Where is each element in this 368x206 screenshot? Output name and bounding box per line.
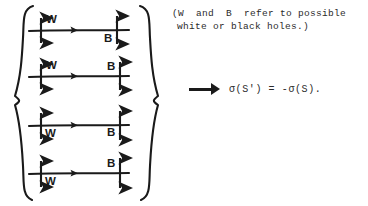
conclusion-formula: σ(S') = -σ(S). <box>229 84 321 95</box>
row-4-horizontal-line <box>29 173 129 174</box>
row-3-left-label: W <box>45 127 56 139</box>
note-line-1: (W and B refer to possible <box>172 8 368 21</box>
row-1-right-label: B <box>104 32 112 44</box>
row-4-left-label: W <box>45 175 56 187</box>
row-2-left-label: W <box>46 59 57 71</box>
implies-arrow-head <box>211 83 220 95</box>
implies-arrow-icon <box>189 83 223 95</box>
row-4-right-label: B <box>107 157 115 169</box>
row-1-left-label: W <box>46 13 57 25</box>
row-2-right-label: B <box>107 60 115 72</box>
row-1-horizontal-line <box>29 30 129 31</box>
left-brace-glyph <box>15 6 33 200</box>
diagram-row-4: W B <box>29 157 129 188</box>
row-3-right-label: B <box>107 126 115 138</box>
figure-svg: W B W B W B W B <box>0 0 185 206</box>
right-brace-glyph <box>140 6 158 200</box>
note-block: (W and B refer to possible white or blac… <box>172 8 368 33</box>
row-2-horizontal-line <box>29 76 129 77</box>
note-line-2: white or black holes.) <box>172 21 368 34</box>
diagram-row-1: W B <box>29 13 129 44</box>
conclusion-block: σ(S') = -σ(S). <box>189 79 321 99</box>
diagram-row-3: W B <box>29 111 129 140</box>
diagram-row-2: W B <box>29 59 129 90</box>
figure-diagram: W B W B W B W B <box>0 0 185 206</box>
